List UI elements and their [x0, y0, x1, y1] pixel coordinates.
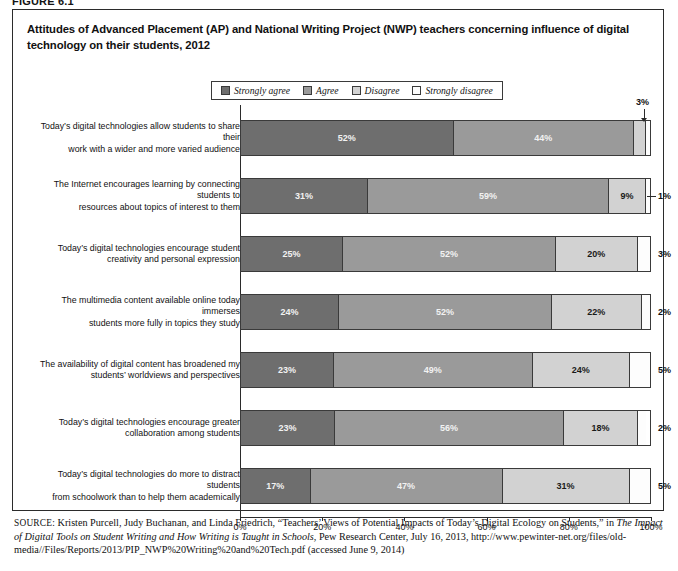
row-label-line: The availability of digital content has …: [40, 359, 240, 371]
stacked-bar: 31%59%9%: [240, 178, 651, 214]
row-category-label: Today’s digital technologies do more to …: [35, 457, 240, 515]
bar-segment-value: 17%: [266, 481, 284, 491]
row-label-line: from schoolwork than to help them academ…: [52, 492, 240, 504]
bar-rows: Today’s digital technologies allow stude…: [13, 109, 665, 515]
bar-segment-value: 18%: [591, 423, 609, 433]
bar-value-callout: 1%: [658, 191, 671, 201]
bar-segment-value: 9%: [620, 191, 633, 201]
bar-segment-value: 23%: [279, 423, 297, 433]
row-label-line: creativity and personal expression: [107, 254, 240, 266]
chart-row: Today’s digital technologies do more to …: [13, 457, 665, 515]
bar-segment-value: 44%: [534, 133, 552, 143]
bar-segment: 20%: [556, 237, 638, 271]
chart-row: The multimedia content available online …: [13, 283, 665, 341]
bar-segment-value: 24%: [281, 307, 299, 317]
bar-segment: 52%: [343, 237, 556, 271]
source-text-1: Kristen Purcell, Judy Buchanan, and Lind…: [55, 517, 617, 528]
stacked-bar: 23%49%24%: [240, 352, 651, 388]
chart-row: The availability of digital content has …: [13, 341, 665, 399]
bar-segment-value: 52%: [440, 249, 458, 259]
bar-segment: 49%: [334, 353, 532, 387]
row-label-line: Today’s digital technologies do more to …: [35, 469, 240, 492]
bar-segment: 52%: [241, 121, 454, 155]
chart-row: The Internet encourages learning by conn…: [13, 167, 665, 225]
bar-segment: 25%: [241, 237, 343, 271]
bar-value-callout: 3%: [658, 249, 671, 259]
bar-value-callout: 5%: [658, 481, 671, 491]
row-category-label: Today’s digital technologies allow stude…: [35, 109, 240, 167]
row-label-line: work with a wider and more varied audien…: [68, 144, 240, 156]
bar-segment: [638, 237, 650, 271]
source-kicker: SOURCE:: [14, 518, 55, 528]
bar-segment-value: 59%: [479, 191, 497, 201]
row-label-line: resources about topics of interest to th…: [79, 202, 240, 214]
row-category-label: The multimedia content available online …: [35, 283, 240, 341]
row-label-line: collaboration among students: [125, 428, 240, 440]
bar-segment: 52%: [339, 295, 552, 329]
figure-label: FIGURE 6.1: [12, 0, 74, 6]
chart-row: Today’s digital technologies encourage s…: [13, 225, 665, 283]
row-category-label: The availability of digital content has …: [35, 341, 240, 399]
bar-value-callout: 2%: [658, 307, 671, 317]
bar-value-callout: 5%: [658, 365, 671, 375]
chart-plot-area: Today’s digital technologies allow stude…: [13, 10, 665, 512]
row-category-label: Today’s digital technologies encourage g…: [35, 399, 240, 457]
stacked-bar: 23%56%18%: [240, 410, 651, 446]
bar-value-callout: 3%: [636, 97, 649, 107]
bar-segment: 24%: [241, 295, 339, 329]
row-label-line: The multimedia content available online …: [35, 295, 240, 318]
bar-segment-value: 20%: [587, 249, 605, 259]
bar-segment: 59%: [368, 179, 609, 213]
stacked-bar: 17%47%31%: [240, 468, 651, 504]
bar-value-callout: 2%: [658, 423, 671, 433]
bar-segment-value: 56%: [440, 423, 458, 433]
row-label-line: Today’s digital technologies encourage g…: [59, 417, 240, 429]
bar-segment: 31%: [241, 179, 368, 213]
row-label-line: Today’s digital technologies allow stude…: [35, 121, 240, 144]
bar-segment: 44%: [454, 121, 634, 155]
bar-segment: 22%: [552, 295, 642, 329]
bar-segment-value: 52%: [436, 307, 454, 317]
bar-segment: 17%: [241, 469, 311, 503]
bar-segment-value: 25%: [283, 249, 301, 259]
callout-leader-line: [647, 196, 656, 197]
bar-segment: 23%: [241, 353, 334, 387]
bar-segment-value: 49%: [424, 365, 442, 375]
bar-segment-value: 24%: [572, 365, 590, 375]
bar-segment: 56%: [335, 411, 564, 445]
stacked-bar: 25%52%20%: [240, 236, 651, 272]
bar-segment: 18%: [564, 411, 638, 445]
row-label-line: The Internet encourages learning by conn…: [35, 179, 240, 202]
chart-row: Today’s digital technologies allow stude…: [13, 109, 665, 167]
bar-segment-value: 47%: [397, 481, 415, 491]
bar-segment-value: 22%: [587, 307, 605, 317]
bar-segment: 31%: [503, 469, 630, 503]
bar-segment: [642, 295, 650, 329]
bar-segment: 9%: [609, 179, 646, 213]
callout-arrow-icon: [641, 118, 647, 122]
figure-box: Attitudes of Advanced Placement (AP) and…: [12, 9, 664, 511]
bar-segment: [634, 121, 646, 155]
bar-segment: 23%: [241, 411, 335, 445]
bar-segment: 47%: [311, 469, 503, 503]
row-label-line: Today’s digital technologies encourage s…: [58, 243, 240, 255]
bar-segment: [630, 469, 650, 503]
row-label-line: students’ worldviews and perspectives: [91, 370, 240, 382]
bar-segment-value: 23%: [278, 365, 296, 375]
chart-row: Today’s digital technologies encourage g…: [13, 399, 665, 457]
row-category-label: The Internet encourages learning by conn…: [35, 167, 240, 225]
bar-segment: [646, 121, 650, 155]
bar-segment: 24%: [533, 353, 630, 387]
bar-segment-value: 31%: [557, 481, 575, 491]
stacked-bar: 52%44%: [240, 120, 651, 156]
source-note: SOURCE: Kristen Purcell, Judy Buchanan, …: [14, 516, 668, 557]
bar-segment-value: 52%: [338, 133, 356, 143]
bar-segment-value: 31%: [295, 191, 313, 201]
row-label-line: students more fully in topics they study: [89, 318, 240, 330]
bar-segment: [638, 411, 646, 445]
bar-segment: [630, 353, 650, 387]
row-category-label: Today’s digital technologies encourage s…: [35, 225, 240, 283]
stacked-bar: 24%52%22%: [240, 294, 651, 330]
